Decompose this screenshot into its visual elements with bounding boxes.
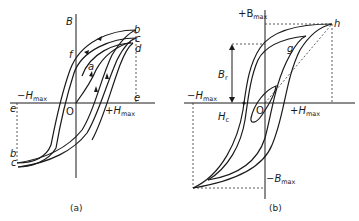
neg-h-text: −H — [17, 90, 33, 101]
origin-label-b: O — [256, 105, 264, 116]
pos-bmax-label: +Bmax — [238, 8, 268, 21]
figure-a: B f a b c d e e b c O −Hmax +Hmax (a) — [10, 14, 155, 213]
arrow-down-icon — [229, 97, 235, 103]
pos-h-subscript-b: max — [306, 110, 320, 118]
pos-hmax-label-b: +Hmax — [290, 105, 320, 118]
neg-hmax-label-a: −Hmax — [17, 90, 47, 103]
neg-h-text-b: −H — [187, 90, 203, 101]
pos-hmax-label-a: +Hmax — [105, 105, 135, 118]
pos-h-subscript: max — [121, 110, 135, 118]
pos-b-subscript: max — [253, 13, 267, 21]
coercivity-label: Hc — [218, 111, 230, 124]
origin-label-a: O — [66, 106, 74, 117]
point-a-label: a — [88, 61, 94, 72]
hc-subscript: c — [226, 116, 230, 124]
pos-h-text-b: +H — [290, 105, 306, 116]
caption-b: (b) — [269, 203, 282, 213]
arrow-icon — [94, 86, 98, 92]
arrow-icon — [105, 73, 109, 79]
caption-a: (a) — [70, 203, 83, 213]
figure-b: +Bmax h g Br Hc O −Hmax +Hmax −Bmax (b) — [184, 8, 355, 213]
neg-h-subscript-b: max — [203, 95, 217, 103]
arrow-up-icon — [229, 44, 235, 50]
hysteresis-figure: B f a b c d e e b c O −Hmax +Hmax (a) — [0, 0, 359, 221]
point-g-label: g — [287, 43, 293, 54]
br-subscript: r — [225, 74, 228, 82]
point-c-label-bottom: c — [11, 157, 17, 168]
pos-b-text: +B — [238, 8, 253, 19]
neg-bmax-label: −Bmax — [266, 173, 296, 186]
point-d-label: d — [135, 43, 142, 54]
pos-h-text: +H — [105, 105, 121, 116]
point-f-label: f — [69, 49, 74, 60]
coercivity-point — [242, 101, 245, 104]
point-h-label: h — [334, 18, 340, 29]
neg-b-text: −B — [266, 173, 281, 184]
b-axis-label: B — [66, 16, 73, 27]
point-e-label-left: e — [10, 103, 16, 114]
neg-hmax-label-b: −Hmax — [187, 90, 217, 103]
point-e-label-right: e — [134, 92, 140, 103]
remanence-label: Br — [218, 69, 228, 82]
neg-b-subscript: max — [281, 178, 295, 186]
neg-h-subscript: max — [33, 95, 47, 103]
